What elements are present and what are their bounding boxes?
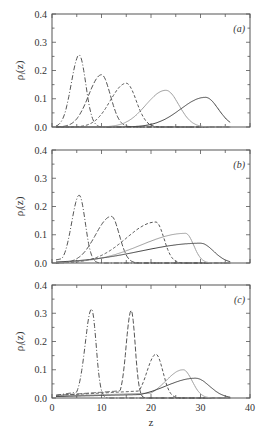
- y-tick-label: 0.0: [35, 258, 48, 269]
- x-tick-label: 30: [196, 402, 206, 413]
- y-tick-label: 0.3: [35, 37, 48, 48]
- y-tick-label: 0.1: [35, 229, 48, 240]
- curve-long-dash: [56, 75, 230, 127]
- panel-label: (b): [233, 159, 245, 171]
- y-tick-label: 0.2: [35, 65, 48, 76]
- panel-a: 0.00.10.20.30.4ρi(z)(a): [13, 9, 250, 133]
- curve-gray-solid: [56, 233, 230, 263]
- y-axis-title: ρi(z): [13, 60, 27, 80]
- y-tick-label: 0.2: [35, 336, 48, 347]
- chart-figure: 0.00.10.20.30.4ρi(z)(a)0.00.10.20.30.4ρi…: [0, 0, 267, 440]
- curve-short-dash: [56, 83, 230, 127]
- y-tick-label: 0.0: [35, 393, 48, 404]
- y-tick-label: 0.3: [35, 308, 48, 319]
- y-axis-title: ρi(z): [13, 331, 27, 351]
- y-tick-label: 0.1: [35, 364, 48, 375]
- curve-dark-solid: [56, 97, 230, 127]
- curve-dark-solid: [56, 243, 230, 262]
- y-tick-label: 0.1: [35, 93, 48, 104]
- y-tick-label: 0.2: [35, 201, 48, 212]
- x-tick-label: 40: [245, 402, 255, 413]
- y-tick-label: 0.0: [35, 122, 48, 133]
- curve-gray-solid: [56, 90, 230, 127]
- curve-short-dash: [56, 354, 230, 398]
- curve-dash-dot: [56, 195, 230, 263]
- y-tick-label: 0.4: [35, 145, 48, 156]
- y-axis-title: ρi(z): [13, 196, 27, 216]
- y-tick-label: 0.4: [35, 280, 48, 291]
- curve-short-dash: [56, 222, 230, 263]
- x-tick-label: 20: [146, 402, 156, 413]
- x-tick-label: 10: [97, 402, 107, 413]
- panel-c: 0.00.10.20.30.4010203040ρi(z)(c)z: [13, 280, 255, 429]
- plot-frame: [52, 285, 250, 398]
- curve-dash-dot: [56, 309, 230, 398]
- plot-frame: [52, 14, 250, 127]
- plot-frame: [52, 150, 250, 263]
- x-tick-label: 0: [50, 402, 55, 413]
- curve-long-dash: [56, 216, 230, 263]
- x-axis-title: z: [149, 416, 154, 428]
- y-tick-label: 0.3: [35, 173, 48, 184]
- y-tick-label: 0.4: [35, 9, 48, 20]
- curve-long-dash: [56, 310, 230, 398]
- panel-label: (a): [233, 23, 245, 35]
- panel-b: 0.00.10.20.30.4ρi(z)(b): [13, 145, 250, 269]
- panel-label: (c): [234, 294, 246, 306]
